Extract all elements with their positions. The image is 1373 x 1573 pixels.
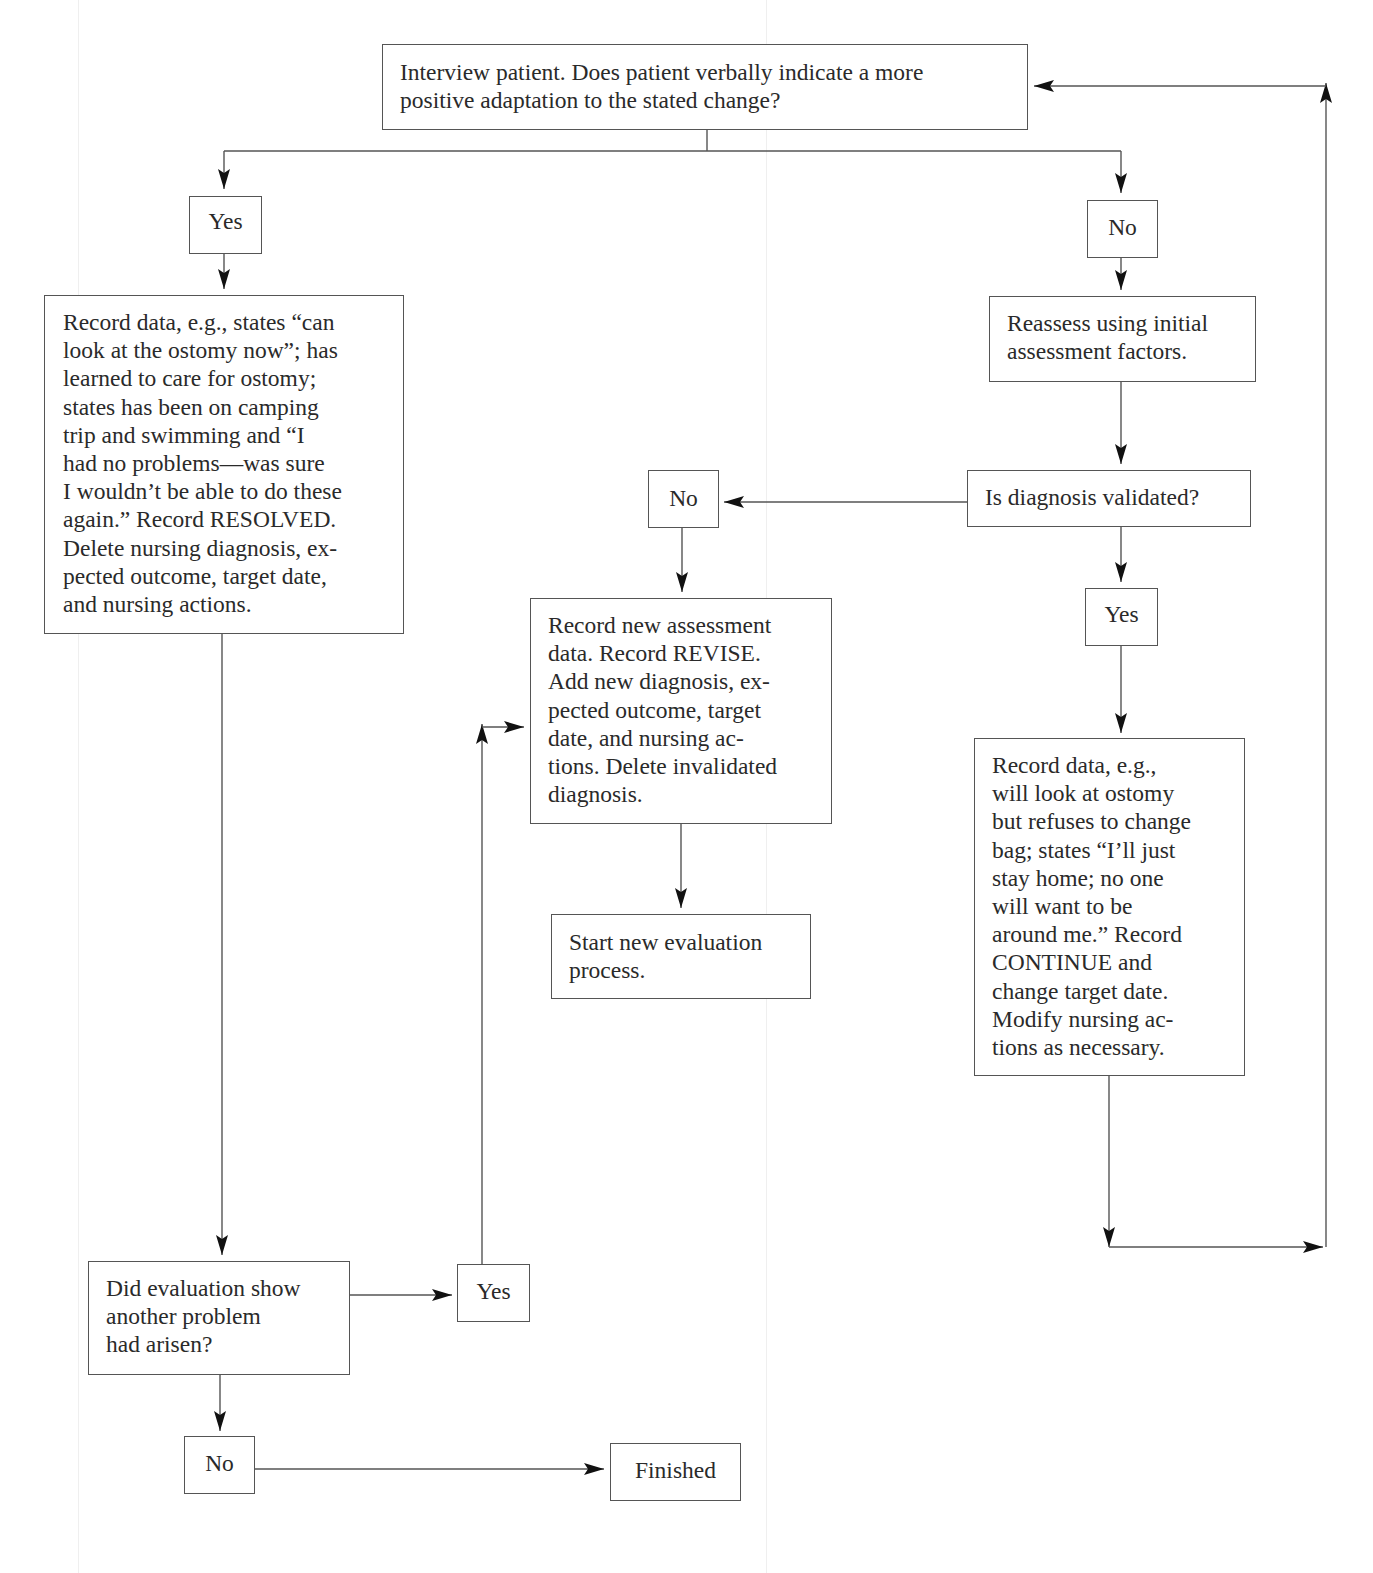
node-record-continue: Record data, e.g., will look at ostomy b… [974,738,1245,1076]
node-record-revise: Record new assessment data. Record REVIS… [530,598,832,824]
node-interview: Interview patient. Does patient verbally… [382,44,1028,130]
node-yes-bottom: Yes [457,1264,530,1322]
node-diagnosis-validated: Is diagnosis validated? [967,470,1251,527]
node-another-problem: Did evaluation show another problem had … [88,1261,350,1375]
node-no-bottom: No [184,1436,255,1494]
node-no-top: No [1087,200,1158,258]
flowchart-canvas: Interview patient. Does patient verbally… [0,0,1373,1573]
node-start-new: Start new evaluation process. [551,914,811,999]
node-no-mid: No [648,470,719,528]
node-yes-top: Yes [189,196,262,254]
node-yes-right: Yes [1085,588,1158,646]
node-finished: Finished [610,1443,741,1501]
node-record-resolved: Record data, e.g., states “can look at t… [44,295,404,634]
edge-interview-branch [224,129,1121,151]
node-reassess: Reassess using initial assessment factor… [989,296,1256,382]
